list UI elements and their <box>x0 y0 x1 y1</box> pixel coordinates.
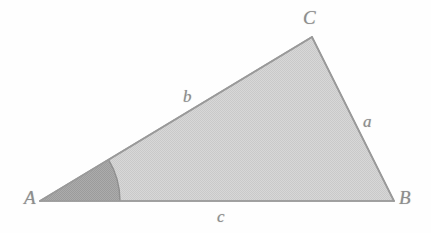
vertex-label-c: C <box>303 8 316 27</box>
triangle-figure: A B C a b c <box>0 0 431 233</box>
vertex-label-b: B <box>399 188 411 207</box>
angle-sector-a <box>40 160 120 201</box>
side-label-b: b <box>183 88 192 105</box>
side-label-c: c <box>217 208 225 225</box>
vertex-label-a: A <box>24 188 36 207</box>
triangle-group <box>40 37 394 201</box>
angle-marker-group <box>40 160 120 201</box>
side-label-a: a <box>363 113 372 130</box>
